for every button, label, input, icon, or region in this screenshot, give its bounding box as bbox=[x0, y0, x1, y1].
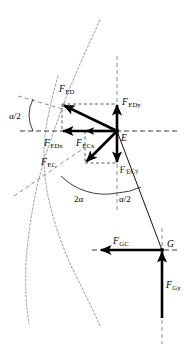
structural-lines-group bbox=[117, 131, 162, 250]
force-vectors-at-E bbox=[63, 105, 119, 162]
label-F-EDx-base: F bbox=[43, 138, 50, 148]
label-F-EDy-base: F bbox=[121, 97, 128, 107]
reference-axes-group bbox=[14, 56, 180, 344]
node-dot-G bbox=[160, 248, 164, 252]
line-E-to-G bbox=[117, 131, 162, 250]
label-F-EC-base: F bbox=[40, 157, 47, 167]
label-F-ED-base: F bbox=[58, 84, 65, 94]
label-angle-alpha-half-lower: α/2 bbox=[119, 194, 131, 204]
label-point-E: E bbox=[120, 133, 127, 143]
label-group: FED FEDx FECx FEC FEDy FECy FGC FGy bbox=[9, 84, 181, 291]
label-F-GC-base: F bbox=[112, 236, 119, 246]
label-F-EDy-sub: EDy bbox=[128, 101, 141, 108]
force-diagram-figure: FED FEDx FECx FEC FEDy FECy FGC FGy bbox=[0, 0, 188, 352]
label-F-ECx-base: F bbox=[75, 138, 82, 148]
label-point-G: G bbox=[167, 239, 174, 249]
oblique-reference-line-lower-left bbox=[14, 148, 84, 196]
label-F-Gy-sub: Gy bbox=[172, 284, 181, 291]
label-force-F-ECy: FECy bbox=[118, 162, 140, 176]
label-force-F-ECx: FECx bbox=[75, 138, 95, 149]
label-force-F-EC: FEC bbox=[40, 157, 56, 168]
label-angle-two-alpha: 2α bbox=[74, 194, 84, 204]
force-vector-F-ED[interactable] bbox=[64, 106, 117, 132]
label-force-F-ED: FED bbox=[58, 84, 74, 95]
label-force-F-EDx: FEDx bbox=[43, 138, 63, 149]
label-F-GC-sub: GC bbox=[119, 240, 129, 247]
bone-contour-outer bbox=[26, 20, 100, 324]
label-force-F-GC: FGC bbox=[112, 236, 129, 247]
arc-alpha-half-lower bbox=[117, 187, 141, 193]
label-force-F-EDy: FEDy bbox=[121, 97, 141, 108]
label-F-ECx-sub: ECx bbox=[82, 142, 95, 149]
label-F-Gy-base: F bbox=[165, 280, 172, 290]
label-F-ECy-sub: ECy bbox=[126, 166, 140, 175]
node-dot-E bbox=[115, 129, 119, 133]
label-force-F-Gy: FGy bbox=[165, 280, 181, 291]
bone-contour-inner bbox=[44, 76, 100, 326]
arc-alpha-half-upper-left bbox=[29, 99, 33, 131]
bone-contour-group bbox=[26, 20, 100, 326]
force-vectors-at-G bbox=[101, 248, 164, 318]
label-F-EC-sub: EC bbox=[47, 161, 56, 168]
angle-reference-ray-upper-left bbox=[18, 96, 66, 110]
arc-two-alpha bbox=[61, 176, 117, 194]
label-F-ED-sub: ED bbox=[65, 88, 74, 95]
label-F-EDx-sub: EDx bbox=[50, 142, 63, 149]
force-diagram-canvas: FED FEDx FECx FEC FEDy FECy FGC FGy bbox=[0, 0, 188, 352]
component-construction-group bbox=[62, 104, 117, 163]
label-angle-alpha-half-upper-left: α/2 bbox=[9, 111, 21, 121]
